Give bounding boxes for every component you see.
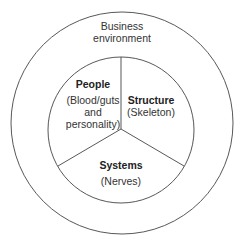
people-subtitle-3: personality): [66, 118, 120, 130]
outer-label-line-2: environment: [93, 32, 151, 44]
people-subtitle-1: (Blood/guts: [66, 94, 119, 106]
people-title: People: [76, 78, 111, 90]
people-subtitle-2: and: [84, 106, 102, 118]
outer-label-line-1: Business: [101, 20, 144, 32]
business-model-diagram: Business environment People (Blood/guts …: [0, 0, 243, 252]
structure-subtitle: (Skeleton): [127, 106, 175, 118]
outer-circle-business-environment: [11, 12, 233, 234]
systems-title: Systems: [99, 159, 142, 171]
structure-title: Structure: [128, 94, 175, 106]
systems-subtitle: (Nerves): [101, 175, 141, 187]
